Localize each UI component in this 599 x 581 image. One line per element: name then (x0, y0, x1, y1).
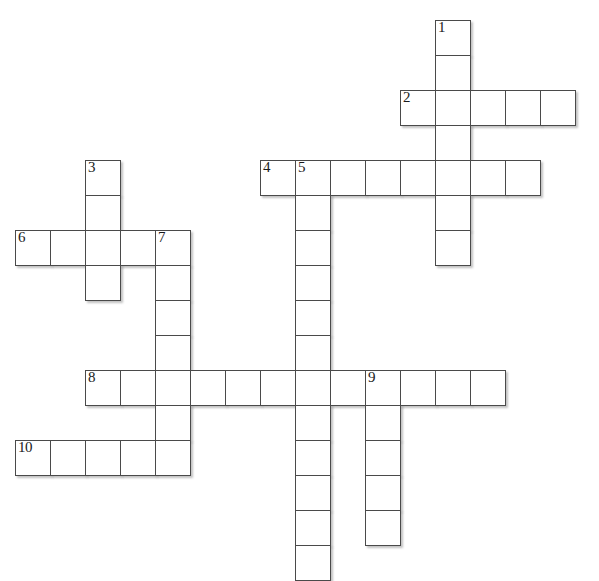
crossword-cell-numbered-1[interactable]: 1 (435, 20, 471, 56)
crossword-cell[interactable] (365, 160, 401, 196)
crossword-cell[interactable] (190, 370, 226, 406)
clue-number-6: 6 (18, 229, 25, 245)
crossword-cell[interactable] (505, 160, 541, 196)
crossword-cell[interactable] (365, 510, 401, 546)
crossword-cell[interactable] (50, 230, 86, 266)
crossword-cell[interactable] (155, 440, 191, 476)
crossword-cell[interactable] (435, 90, 471, 126)
crossword-cell[interactable] (155, 370, 191, 406)
crossword-cell[interactable] (435, 125, 471, 161)
clue-number-7: 7 (158, 229, 165, 245)
crossword-cell[interactable] (470, 90, 506, 126)
crossword-cell[interactable] (365, 475, 401, 511)
clue-number-1: 1 (438, 19, 445, 35)
clue-number-3: 3 (88, 159, 95, 175)
crossword-cell[interactable] (295, 300, 331, 336)
crossword-cell[interactable] (260, 370, 296, 406)
crossword-cell[interactable] (295, 475, 331, 511)
crossword-cell[interactable] (50, 440, 86, 476)
crossword-cell[interactable] (295, 195, 331, 231)
crossword-cell[interactable] (120, 440, 156, 476)
crossword-cell[interactable] (400, 160, 436, 196)
crossword-cell[interactable] (120, 230, 156, 266)
crossword-grid[interactable]: 12345678910 (0, 0, 599, 581)
crossword-cell[interactable] (295, 335, 331, 371)
crossword-cell[interactable] (295, 545, 331, 581)
crossword-cell[interactable] (295, 370, 331, 406)
clue-number-2: 2 (403, 89, 410, 105)
crossword-cell[interactable] (85, 440, 121, 476)
crossword-cell[interactable] (435, 195, 471, 231)
crossword-cell[interactable] (365, 440, 401, 476)
crossword-cell[interactable] (400, 370, 436, 406)
crossword-cell-numbered-7[interactable]: 7 (155, 230, 191, 266)
crossword-cell-numbered-5[interactable]: 5 (295, 160, 331, 196)
crossword-cell-numbered-8[interactable]: 8 (85, 370, 121, 406)
crossword-cell[interactable] (85, 195, 121, 231)
crossword-cell[interactable] (120, 370, 156, 406)
crossword-cell[interactable] (330, 160, 366, 196)
crossword-cell-numbered-2[interactable]: 2 (400, 90, 436, 126)
crossword-cell[interactable] (435, 160, 471, 196)
crossword-cell[interactable] (365, 405, 401, 441)
crossword-cell-numbered-6[interactable]: 6 (15, 230, 51, 266)
crossword-cell[interactable] (330, 370, 366, 406)
crossword-cell[interactable] (85, 230, 121, 266)
crossword-cell[interactable] (505, 90, 541, 126)
crossword-cell[interactable] (85, 265, 121, 301)
crossword-cell[interactable] (470, 160, 506, 196)
clue-number-8: 8 (88, 369, 95, 385)
crossword-cell[interactable] (295, 510, 331, 546)
clue-number-4: 4 (263, 159, 270, 175)
crossword-puzzle: 12345678910 (0, 0, 599, 581)
crossword-cell[interactable] (295, 230, 331, 266)
clue-number-10: 10 (18, 439, 32, 455)
crossword-cell[interactable] (435, 370, 471, 406)
crossword-cell-numbered-10[interactable]: 10 (15, 440, 51, 476)
crossword-cell[interactable] (295, 405, 331, 441)
crossword-cell[interactable] (225, 370, 261, 406)
crossword-cell[interactable] (295, 440, 331, 476)
crossword-cell[interactable] (155, 265, 191, 301)
clue-number-5: 5 (298, 159, 305, 175)
crossword-cell[interactable] (155, 335, 191, 371)
crossword-cell[interactable] (155, 300, 191, 336)
crossword-cell[interactable] (470, 370, 506, 406)
crossword-cell[interactable] (295, 265, 331, 301)
clue-number-9: 9 (368, 369, 375, 385)
crossword-cell-numbered-3[interactable]: 3 (85, 160, 121, 196)
crossword-cell[interactable] (540, 90, 576, 126)
crossword-cell[interactable] (435, 55, 471, 91)
crossword-cell-numbered-9[interactable]: 9 (365, 370, 401, 406)
crossword-cell[interactable] (155, 405, 191, 441)
crossword-cell[interactable] (435, 230, 471, 266)
crossword-cell-numbered-4[interactable]: 4 (260, 160, 296, 196)
